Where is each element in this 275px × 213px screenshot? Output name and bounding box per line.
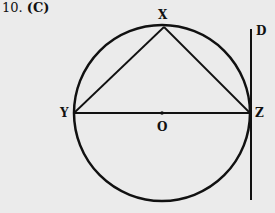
geometry-diagram <box>0 0 275 213</box>
label-z: Z <box>255 106 264 120</box>
label-y: Y <box>60 106 69 120</box>
segment-xz <box>164 27 250 113</box>
label-d: D <box>256 24 266 38</box>
center-point-o <box>160 111 164 115</box>
segment-yx <box>74 27 164 113</box>
label-o: O <box>157 120 167 134</box>
label-x: X <box>158 8 167 22</box>
